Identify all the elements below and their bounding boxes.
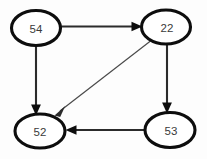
node-54[interactable]: 54 <box>12 11 61 46</box>
graph-figure: 54 22 52 53 <box>0 0 207 159</box>
edge-53-to-52-arrowhead <box>66 125 77 134</box>
edge-22-to-52 <box>55 41 151 117</box>
node-52[interactable]: 52 <box>15 114 65 148</box>
node-52-label: 52 <box>33 126 46 138</box>
node-53[interactable]: 53 <box>145 113 195 148</box>
node-54-label: 54 <box>29 23 43 35</box>
edge-54-to-22 <box>60 22 143 31</box>
edge-53-to-52 <box>66 125 146 134</box>
edge-22-to-53 <box>162 44 172 114</box>
node-53-label: 53 <box>164 125 177 137</box>
edge-22-to-52-arrowhead <box>55 106 66 117</box>
edge-54-to-52 <box>31 45 41 116</box>
node-22-label: 22 <box>160 22 173 34</box>
graph-canvas: 54 22 52 53 <box>0 0 207 159</box>
edge-22-to-52-line <box>60 41 151 111</box>
node-22[interactable]: 22 <box>142 10 191 44</box>
